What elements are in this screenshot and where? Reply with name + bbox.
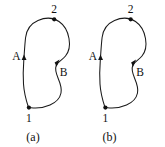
panel-b-path-a-arrowhead	[98, 55, 103, 61]
panel-b: 2 1 A B (b)	[89, 3, 146, 144]
two-panel-closed-curve-diagram: 2 1 A B (a) 2 1 A B (b)	[0, 0, 165, 147]
panel-b-node-2-label: 2	[128, 3, 134, 15]
panel-a: 2 1 A B (a)	[12, 3, 69, 144]
panel-a-path-a-arrowhead	[22, 55, 27, 61]
panel-a-path-a-label: A	[12, 50, 21, 62]
panel-b-path-a-label: A	[89, 50, 98, 62]
panel-b-node-1-label: 1	[102, 112, 108, 124]
panel-a-node-1-label: 1	[26, 112, 32, 124]
panel-a-node-2-dot	[52, 17, 56, 21]
figure-container: 2 1 A B (a) 2 1 A B (b)	[0, 0, 165, 147]
panel-a-path-b-label: B	[60, 66, 68, 78]
panel-b-closed-curve	[100, 18, 146, 108]
panel-a-closed-curve	[23, 18, 69, 108]
panel-b-node-2-dot	[129, 17, 133, 21]
panel-a-node-2-label: 2	[51, 3, 57, 15]
panel-a-caption: (a)	[26, 130, 39, 144]
panel-b-caption: (b)	[103, 130, 117, 144]
panel-a-node-1-dot	[27, 106, 31, 110]
panel-b-path-b-label: B	[136, 66, 144, 78]
panel-b-node-1-dot	[103, 106, 107, 110]
